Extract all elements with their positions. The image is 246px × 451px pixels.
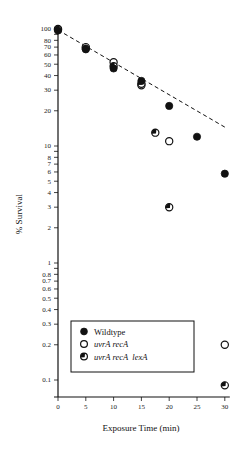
legend-label: Wildtype [94,327,126,337]
data-point-half-filled-circle [166,204,173,211]
y-tick-label: 0.5 [42,295,51,303]
survival-chart: 1008070605040302010876543210.80.70.60.50… [0,0,246,451]
y-tick-label: 0.1 [42,376,51,384]
y-tick-label: 0.3 [42,320,51,328]
data-point-filled-circle [138,77,145,84]
y-tick-label: 0.7 [42,277,51,285]
y-tick-label: 0.2 [42,341,51,349]
y-tick-label: 5 [48,178,52,186]
y-tick-label: 3 [48,203,52,211]
data-point-filled-circle [54,27,61,34]
filled-circle-icon [221,170,228,177]
y-tick-label: 50 [44,61,52,69]
legend: WildtypeuvrA recAuvrA recA lexA [71,321,194,372]
x-tick-label: 0 [56,403,60,411]
data-point-half-filled-circle [152,129,159,136]
x-axis: 051015202530 [54,397,230,411]
y-tick-label: 0.6 [42,285,51,293]
y-tick-label: 30 [44,86,52,94]
y-tick-label: 0.4 [42,306,51,314]
legend-label: uvrA recA [94,339,129,349]
data-point-filled-circle [193,133,200,140]
data-point-open-circle [166,138,173,145]
filled-circle-icon [193,133,200,140]
open-circle-icon [221,341,228,348]
data-point-filled-circle [110,65,117,72]
x-tick-label: 30 [221,403,229,411]
filled-circle-icon [54,27,61,34]
open-circle-icon [81,341,88,348]
x-axis-title: Exposure Time (min) [102,423,179,433]
data-point-filled-circle [82,46,89,53]
x-tick-label: 15 [138,403,146,411]
y-tick-label: 6 [48,168,52,176]
y-tick-label: 20 [44,107,52,115]
y-tick-label: 2 [48,224,52,232]
y-tick-label: 100 [41,25,52,33]
filled-circle-icon [82,46,89,53]
data-point-filled-circle [166,102,173,109]
filled-circle-icon [81,328,88,335]
y-tick-label: 7 [48,160,52,168]
data-point-filled-circle [221,170,228,177]
legend-box [71,321,194,372]
legend-marker [81,353,88,360]
x-tick-label: 5 [84,403,88,411]
y-tick-label: 1 [48,259,52,267]
legend-label: uvrA recA lexA [94,352,148,362]
x-tick-label: 10 [110,403,118,411]
y-tick-label: 60 [44,51,52,59]
x-tick-label: 25 [194,403,202,411]
open-circle-icon [166,138,173,145]
filled-circle-icon [166,102,173,109]
y-axis-title: % Survival [14,193,24,234]
x-tick-label: 20 [166,403,174,411]
y-axis: 1008070605040302010876543210.80.70.60.50… [41,25,59,397]
y-tick-label: 70 [44,43,52,51]
y-tick-label: 4 [48,189,52,197]
filled-circle-icon [110,65,117,72]
data-point-half-filled-circle [221,382,228,389]
legend-marker [81,328,88,335]
y-tick-label: 10 [44,142,52,150]
legend-marker [81,341,88,348]
data-point-open-circle [221,341,228,348]
filled-circle-icon [138,77,145,84]
y-tick-label: 40 [44,72,52,80]
